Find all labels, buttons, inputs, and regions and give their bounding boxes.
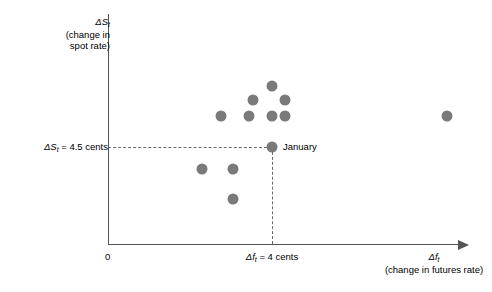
y-axis-title-subscript: t	[108, 21, 110, 28]
y-reference-label: ΔSt = 4.5 cents	[44, 141, 108, 154]
data-point-january	[267, 142, 278, 153]
x-reference-value: = 4 cents	[257, 251, 298, 262]
x-axis-title-subscript: t	[438, 256, 440, 263]
data-point	[197, 164, 208, 175]
data-point	[280, 95, 291, 106]
horizontal-reference-line	[108, 147, 272, 148]
y-axis-title-symbol: ΔS	[95, 16, 108, 27]
y-axis-title: ΔSt (change in spot rate)	[66, 16, 110, 52]
origin-label: 0	[105, 251, 110, 263]
data-point	[267, 111, 278, 122]
x-axis-line	[108, 244, 460, 245]
data-point	[216, 111, 227, 122]
y-reference-subscript: t	[57, 146, 59, 153]
x-reference-label: Δft = 4 cents	[246, 251, 298, 264]
data-point	[248, 95, 259, 106]
data-point	[244, 111, 255, 122]
x-axis-title-line2: (change in futures rate)	[385, 264, 483, 275]
vertical-reference-line	[272, 147, 273, 244]
scatter-plot-figure: ΔSt (change in spot rate) 0 ΔSt = 4.5 ce…	[0, 0, 492, 292]
y-axis-title-line2: (change in	[66, 29, 110, 40]
data-point	[228, 194, 239, 205]
x-axis-title-symbol: Δf	[429, 251, 438, 262]
data-point	[267, 81, 278, 92]
data-point	[280, 111, 291, 122]
january-annotation: January	[283, 141, 317, 153]
data-point	[228, 164, 239, 175]
data-point	[442, 111, 453, 122]
x-axis-arrowhead	[458, 240, 469, 250]
x-axis-title: Δft (change in futures rate)	[385, 251, 483, 275]
x-reference-subscript: t	[255, 256, 257, 263]
x-reference-symbol: Δf	[246, 251, 255, 262]
y-reference-value: = 4.5 cents	[59, 141, 108, 152]
y-axis-title-line3: spot rate)	[70, 40, 110, 51]
y-reference-symbol: ΔS	[44, 141, 57, 152]
